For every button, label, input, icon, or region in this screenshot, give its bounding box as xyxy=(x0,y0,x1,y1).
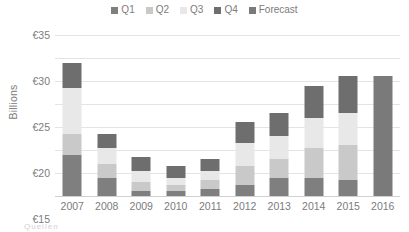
bar-segment-q1-2010[interactable] xyxy=(166,191,185,196)
bar-segment-q1-2009[interactable] xyxy=(132,191,151,196)
bar-segment-q4-2011[interactable] xyxy=(201,159,220,171)
y-axis-tick-label: €35 xyxy=(0,29,50,41)
y-axis-tick-label: €25 xyxy=(0,121,50,133)
stacked-bar-2014[interactable] xyxy=(304,86,323,196)
bar-slot-2010 xyxy=(159,35,194,196)
bar-segment-q3-2014[interactable] xyxy=(304,118,323,148)
stacked-bar-2012[interactable] xyxy=(235,122,254,196)
legend-swatch-q2-icon xyxy=(146,7,153,14)
stacked-bar-2011[interactable] xyxy=(201,159,220,196)
bar-slot-2009 xyxy=(124,35,159,196)
bar-segment-q2-2008[interactable] xyxy=(97,164,116,178)
bar-segment-q2-2011[interactable] xyxy=(201,180,220,189)
bar-segment-q1-2013[interactable] xyxy=(270,178,289,196)
legend-item-q1[interactable]: Q1 xyxy=(111,5,134,15)
plot-area: €0€5€10€15€20€25€30€35 xyxy=(55,35,400,196)
legend-label: Q2 xyxy=(156,5,169,15)
legend-item-q3[interactable]: Q3 xyxy=(180,5,203,15)
bar-segment-q4-2013[interactable] xyxy=(270,113,289,136)
bar-segment-q3-2007[interactable] xyxy=(63,88,82,134)
legend-label: Q1 xyxy=(121,5,134,15)
x-axis-tick-label: 2015 xyxy=(331,198,366,214)
bar-segment-q1-2015[interactable] xyxy=(339,180,358,196)
bar-segment-q4-2009[interactable] xyxy=(132,157,151,171)
bar-segment-q2-2009[interactable] xyxy=(132,182,151,191)
x-axis-tick-label: 2012 xyxy=(228,198,263,214)
legend-label: Forecast xyxy=(259,5,298,15)
x-axis-tick-label: 2013 xyxy=(262,198,297,214)
bar-segment-q3-2009[interactable] xyxy=(132,171,151,183)
bar-slot-2015 xyxy=(331,35,366,196)
bar-slot-2008 xyxy=(90,35,125,196)
stacked-bar-2013[interactable] xyxy=(270,113,289,196)
x-axis-tick-label: 2016 xyxy=(366,198,401,214)
chart-footnote: Quellen xyxy=(24,222,59,231)
x-axis-tick-label: 2007 xyxy=(55,198,90,214)
legend-item-forecast[interactable]: Forecast xyxy=(249,5,298,15)
legend-swatch-q3-icon xyxy=(180,7,187,14)
stacked-bar-2010[interactable] xyxy=(166,166,185,196)
x-axis-labels: 2007200820092010201120122013201420152016 xyxy=(55,198,400,214)
legend-swatch-forecast-icon xyxy=(249,7,256,14)
bar-segment-q2-2014[interactable] xyxy=(304,148,323,178)
bar-segment-q3-2015[interactable] xyxy=(339,113,358,145)
x-axis-tick-label: 2014 xyxy=(297,198,332,214)
legend-item-q2[interactable]: Q2 xyxy=(146,5,169,15)
bar-segment-q2-2013[interactable] xyxy=(270,159,289,177)
x-axis-tick-label: 2008 xyxy=(90,198,125,214)
x-axis-tick-label: 2009 xyxy=(124,198,159,214)
bar-segment-q1-2011[interactable] xyxy=(201,189,220,196)
stacked-bar-2008[interactable] xyxy=(97,134,116,196)
bar-slot-2013 xyxy=(262,35,297,196)
bar-group xyxy=(55,35,400,196)
legend-label: Q4 xyxy=(224,5,237,15)
bar-segment-q3-2008[interactable] xyxy=(97,148,116,164)
legend-swatch-q4-icon xyxy=(214,7,221,14)
x-axis-tick-label: 2011 xyxy=(193,198,228,214)
stacked-bar-2007[interactable] xyxy=(63,63,82,196)
bar-segment-q4-2007[interactable] xyxy=(63,63,82,88)
stacked-bar-2016[interactable] xyxy=(373,76,392,196)
legend-label: Q3 xyxy=(190,5,203,15)
bar-segment-q4-2008[interactable] xyxy=(97,134,116,148)
bar-segment-forecast-2016[interactable] xyxy=(373,76,392,196)
gridline: €0 xyxy=(55,196,400,197)
bar-segment-q4-2012[interactable] xyxy=(235,122,254,143)
bar-segment-q1-2007[interactable] xyxy=(63,155,82,196)
chart-legend: Q1Q2Q3Q4Forecast xyxy=(0,2,409,18)
stacked-bar-2009[interactable] xyxy=(132,157,151,196)
bar-segment-q2-2010[interactable] xyxy=(166,185,185,192)
y-axis-tick-label: €20 xyxy=(0,167,50,179)
bar-segment-q3-2012[interactable] xyxy=(235,143,254,166)
bar-segment-q4-2014[interactable] xyxy=(304,86,323,118)
bar-slot-2007 xyxy=(55,35,90,196)
x-axis-tick-label: 2010 xyxy=(159,198,194,214)
stacked-column-chart: Q1Q2Q3Q4Forecast Billions €0€5€10€15€20€… xyxy=(0,0,409,232)
bar-segment-q2-2015[interactable] xyxy=(339,145,358,180)
bar-slot-2016 xyxy=(366,35,401,196)
bar-segment-q1-2008[interactable] xyxy=(97,178,116,196)
legend-swatch-q1-icon xyxy=(111,7,118,14)
bar-slot-2014 xyxy=(297,35,332,196)
bar-segment-q3-2010[interactable] xyxy=(166,178,185,185)
y-axis-tick-label: €30 xyxy=(0,75,50,87)
bar-segment-q3-2011[interactable] xyxy=(201,171,220,180)
bar-segment-q3-2013[interactable] xyxy=(270,136,289,159)
bar-slot-2012 xyxy=(228,35,263,196)
stacked-bar-2015[interactable] xyxy=(339,76,358,196)
bar-segment-q4-2015[interactable] xyxy=(339,76,358,113)
bar-segment-q2-2012[interactable] xyxy=(235,166,254,184)
legend-item-q4[interactable]: Q4 xyxy=(214,5,237,15)
bar-segment-q4-2010[interactable] xyxy=(166,166,185,178)
bar-segment-q1-2014[interactable] xyxy=(304,178,323,196)
bar-segment-q1-2012[interactable] xyxy=(235,185,254,197)
bar-segment-q2-2007[interactable] xyxy=(63,134,82,155)
bar-slot-2011 xyxy=(193,35,228,196)
